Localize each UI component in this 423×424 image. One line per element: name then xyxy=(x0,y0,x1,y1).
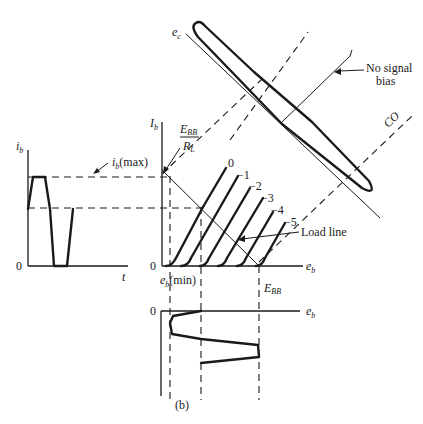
curve-label-minus5: −5 xyxy=(284,215,297,229)
upper-dashed-diagonal xyxy=(230,32,308,140)
left-plot-current-waveform: ib 0 t ib(max) xyxy=(16,139,148,284)
figure-caption: (b) xyxy=(175,398,189,412)
curve-label-0: 0 xyxy=(228,156,234,170)
main-origin-label: 0 xyxy=(150,259,156,273)
no-signal-bias-tick xyxy=(350,50,352,56)
left-origin-label: 0 xyxy=(16,259,22,273)
ec-axis-label: ec xyxy=(172,25,181,41)
ib-max-arrowhead xyxy=(93,168,100,174)
ebb-label: EBB xyxy=(263,281,281,296)
ib-max-label: ib(max) xyxy=(112,155,148,171)
grid-signal-projection: ec No signal bias CO xyxy=(172,22,413,218)
left-y-axis-label: ib xyxy=(16,139,23,155)
curve-label-minus4: −4 xyxy=(271,203,284,217)
cutoff-label: CO xyxy=(381,109,403,131)
ebb-rl-denominator: RL xyxy=(182,139,195,154)
no-signal-bias-label-line1: No signal xyxy=(366,61,413,75)
load-line xyxy=(162,170,259,266)
load-line-diagram: ib 0 t ib(max) Ib 0 eb EBB RL 0 −1 −2 xyxy=(0,0,423,424)
curve-label-minus2: −2 xyxy=(249,179,262,193)
no-signal-bias-label-line2: bias xyxy=(376,74,396,88)
bottom-plot-plate-voltage: 0 eb xyxy=(150,304,315,396)
bottom-origin-label: 0 xyxy=(150,304,156,318)
main-plot-plate-characteristics: Ib 0 eb EBB RL 0 −1 −2 −3 −4 −5 Load lin… xyxy=(149,78,412,275)
no-signal-bias-line xyxy=(280,56,350,124)
current-waveform xyxy=(28,177,73,266)
curve-0 xyxy=(166,207,203,266)
load-line-arrow xyxy=(242,232,299,239)
curve-label-minus1: −1 xyxy=(237,168,250,182)
load-line-label: Load line xyxy=(301,225,347,239)
cutoff-line xyxy=(259,116,412,262)
plate-voltage-waveform xyxy=(170,311,259,363)
no-signal-bias-arrowhead xyxy=(334,68,341,75)
curve-minus5 xyxy=(256,223,285,266)
main-x-axis-label: eb xyxy=(306,259,315,275)
no-signal-bias-arrow xyxy=(339,70,364,71)
ebb-rl-numerator: EBB xyxy=(179,122,197,137)
bottom-x-axis-label: eb xyxy=(306,304,315,320)
grid-signal-loop xyxy=(193,22,371,191)
left-x-axis-label: t xyxy=(122,270,126,284)
ebb-rl-arrow xyxy=(165,148,180,171)
main-y-axis-label: Ib xyxy=(149,116,158,132)
eb-min-label: eb(min) xyxy=(160,273,196,289)
